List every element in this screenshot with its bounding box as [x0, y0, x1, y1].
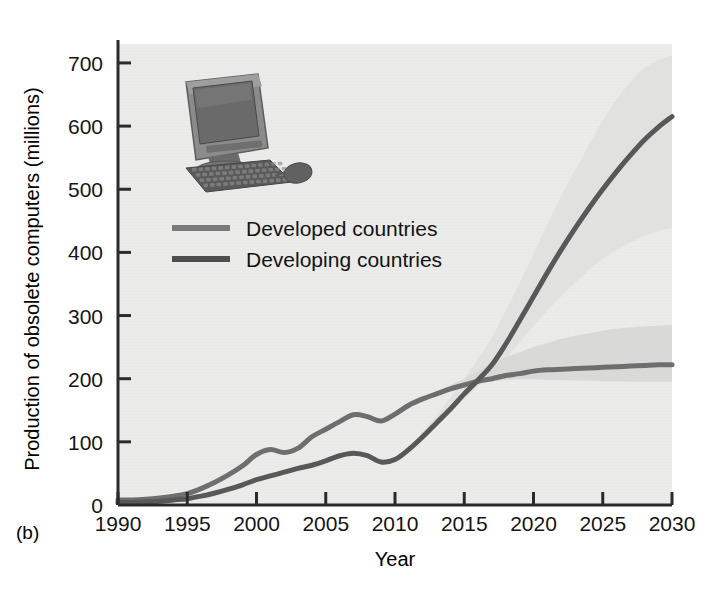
key	[230, 182, 235, 186]
legend-label-1: Developing countries	[246, 248, 442, 271]
x-axis-title: Year	[118, 548, 672, 571]
key	[278, 162, 283, 166]
x-tick-label: 2015	[441, 512, 488, 535]
key	[223, 182, 228, 186]
key	[219, 177, 224, 181]
y-tick-label: 300	[68, 305, 103, 328]
key	[239, 176, 244, 180]
y-tick-label: 600	[68, 115, 103, 138]
x-tick-label: 2005	[302, 512, 349, 535]
key	[252, 175, 257, 179]
key	[203, 184, 208, 188]
key	[225, 166, 230, 170]
key	[258, 163, 263, 167]
key	[218, 166, 223, 170]
key	[243, 181, 248, 185]
key	[242, 170, 247, 174]
key	[229, 171, 234, 175]
legend-label-0: Developed countries	[246, 217, 437, 240]
key	[209, 172, 214, 176]
key	[245, 164, 250, 168]
key	[268, 168, 273, 172]
key	[226, 176, 231, 180]
key	[192, 168, 197, 172]
x-tick-label: 2000	[233, 512, 280, 535]
key	[210, 183, 215, 187]
x-tick-label: 2020	[510, 512, 557, 535]
key	[232, 165, 237, 169]
key	[255, 169, 260, 173]
x-tick-label: 2025	[579, 512, 626, 535]
key	[263, 179, 268, 183]
key	[256, 180, 261, 184]
key	[250, 180, 255, 184]
key	[265, 163, 270, 167]
key	[262, 168, 267, 172]
key	[213, 177, 218, 181]
figure-panel-b: 0100200300400500600700199019952000200520…	[0, 0, 725, 596]
y-axis-title-text: Production of obsolete computers (millio…	[21, 87, 43, 471]
y-tick-label: 500	[68, 178, 103, 201]
obsolete-computers-line-chart: 0100200300400500600700199019952000200520…	[0, 0, 725, 596]
y-tick-label: 700	[68, 52, 103, 75]
key	[206, 178, 211, 182]
key	[275, 167, 280, 171]
key	[202, 173, 207, 177]
key	[205, 167, 210, 171]
key	[222, 171, 227, 175]
x-tick-label: 2010	[372, 512, 419, 535]
key	[196, 173, 201, 177]
key	[212, 167, 217, 171]
y-tick-label: 100	[68, 431, 103, 454]
panel-label-text: (b)	[16, 522, 39, 543]
panel-label: (b)	[16, 522, 39, 544]
key	[251, 164, 256, 168]
key	[246, 175, 251, 179]
y-axis-title: Production of obsolete computers (millio…	[21, 29, 47, 529]
key	[235, 170, 240, 174]
key	[199, 168, 204, 172]
key	[259, 174, 264, 178]
key	[271, 162, 276, 166]
x-axis-title-text: Year	[375, 548, 415, 570]
key	[216, 172, 221, 176]
key	[276, 178, 281, 182]
y-tick-label: 200	[68, 368, 103, 391]
key	[266, 174, 271, 178]
x-tick-label: 2030	[649, 512, 696, 535]
key	[269, 179, 274, 183]
key	[236, 181, 241, 185]
y-tick-label: 400	[68, 241, 103, 264]
x-tick-label: 1995	[164, 512, 211, 535]
key	[200, 178, 205, 182]
key	[238, 165, 243, 169]
key	[217, 183, 222, 187]
x-tick-label: 1990	[95, 512, 142, 535]
key	[233, 176, 238, 180]
key	[249, 169, 254, 173]
